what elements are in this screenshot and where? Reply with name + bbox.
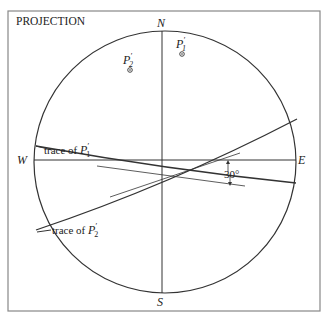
label-north: N bbox=[156, 16, 166, 30]
trace-p2-leader bbox=[37, 230, 51, 232]
projection-diagram: PROJECTION N S W E P′2 P′1 trace of P′1 … bbox=[0, 0, 326, 319]
label-west: W bbox=[17, 153, 28, 167]
frame bbox=[8, 11, 320, 311]
label-east: E bbox=[297, 153, 306, 167]
point-p2-label: P′2 bbox=[122, 52, 133, 69]
primitive-circle bbox=[34, 31, 296, 293]
label-south: S bbox=[157, 295, 163, 309]
diagram-title: PROJECTION bbox=[16, 15, 86, 27]
point-p1-label: P′1 bbox=[175, 36, 186, 53]
trace-p2-curve bbox=[36, 119, 297, 230]
angle-label: 30° bbox=[224, 168, 239, 180]
arrowhead-up-icon bbox=[226, 160, 230, 164]
trace-p1-label: trace of P′1 bbox=[44, 142, 90, 159]
trace-p2-label: trace of P′2 bbox=[52, 222, 98, 239]
